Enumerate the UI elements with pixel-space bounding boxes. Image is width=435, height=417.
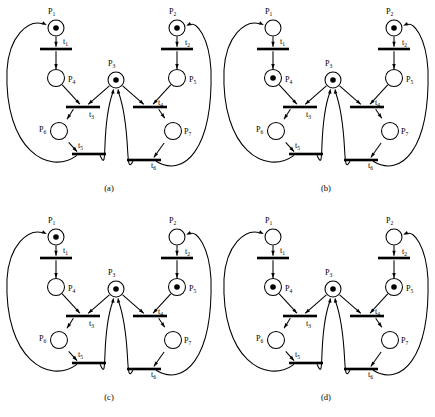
arc-t5-p3 [317, 302, 330, 370]
transition-t3 [66, 106, 100, 109]
transition-t3 [283, 315, 317, 318]
place-label-P1: P1 [48, 216, 56, 226]
arc-arrowhead [271, 251, 274, 256]
arc-arrowhead [67, 114, 71, 119]
arc-t6-p2 [373, 233, 428, 375]
place-label-P2: P2 [386, 7, 394, 17]
transition-label-sub-t5: 5 [80, 145, 83, 151]
place-label-sub-P4: 4 [73, 288, 76, 294]
place-label-sub-P5: 5 [411, 79, 414, 85]
transition-label-sub-t2: 2 [187, 251, 190, 257]
arc-arrowhead [161, 113, 165, 118]
arc-arrowhead [392, 64, 395, 69]
place-label-P6: P6 [256, 334, 264, 344]
arc-arrowhead [186, 22, 191, 26]
transition-label-t1: t1 [280, 37, 285, 47]
transition-label-sub-t3: 3 [91, 114, 94, 120]
arc-layer [224, 21, 428, 166]
place-label-P6: P6 [256, 125, 264, 135]
transition-label-t6: t6 [151, 370, 156, 380]
transition-layer: t1t2t3t4t5t6 [257, 246, 410, 380]
arc-arrowhead [259, 230, 264, 234]
place-label-sub-P1: 1 [270, 11, 273, 17]
place-P6 [268, 123, 285, 140]
place-P5 [386, 70, 403, 87]
transition-t6 [127, 159, 161, 162]
arc-arrowhead [403, 22, 408, 26]
transition-label-sub-t1: 1 [65, 41, 68, 47]
petri-net-diagram-b: t1t2t3t4t5t6P1P2P3P4P5P6P7(b) [217, 0, 435, 208]
transition-label-sub-t5: 5 [80, 354, 83, 360]
place-label-sub-P3: 3 [330, 272, 333, 278]
token-P3 [330, 286, 336, 292]
transition-label-sub-t6: 6 [370, 165, 373, 171]
token-P3 [113, 77, 119, 83]
transition-label-t4: t4 [375, 98, 380, 108]
place-P7 [382, 332, 399, 349]
place-P4 [48, 70, 65, 87]
transition-t1 [257, 48, 289, 51]
arc-t6-p3 [119, 302, 133, 374]
arc-t5-p3 [317, 93, 330, 161]
arc-t6-p3 [119, 93, 133, 165]
transition-label-t3: t3 [306, 319, 311, 329]
place-label-P3: P3 [325, 59, 333, 69]
arc-arrowhead [271, 42, 274, 47]
transition-label-t1: t1 [63, 246, 68, 256]
transition-label-t5: t5 [78, 141, 83, 151]
arc-arrowhead [328, 298, 331, 303]
token-P5 [391, 284, 397, 290]
arc-arrowhead [259, 21, 264, 25]
place-label-sub-P7: 7 [406, 131, 409, 137]
transition-label-t5: t5 [295, 350, 300, 360]
place-P2 [386, 229, 402, 245]
place-layer: P1P2P3P4P5P6P7 [39, 7, 197, 140]
place-label-P1: P1 [265, 7, 273, 17]
arc-arrowhead [186, 231, 191, 235]
token-P3 [113, 286, 119, 292]
panel-caption-a: (a) [104, 183, 114, 193]
place-label-P2: P2 [169, 216, 177, 226]
transition-label-sub-t6: 6 [153, 374, 156, 380]
transition-t5 [72, 153, 106, 156]
arc-t6-p2 [156, 24, 211, 166]
transition-label-t3: t3 [306, 110, 311, 120]
transition-label-t5: t5 [78, 350, 83, 360]
transition-t3 [66, 315, 100, 318]
place-label-P7: P7 [184, 336, 192, 346]
transition-label-sub-t1: 1 [282, 250, 285, 256]
transition-label-sub-t1: 1 [65, 250, 68, 256]
panel-caption-c: (c) [104, 392, 114, 402]
arc-arrowhead [54, 64, 57, 69]
place-label-P4: P4 [285, 75, 293, 85]
arc-arrowhead [392, 273, 395, 278]
arc-arrowhead [175, 273, 178, 278]
transition-label-sub-t3: 3 [308, 323, 311, 329]
place-label-P4: P4 [68, 75, 76, 85]
transition-t5 [289, 362, 323, 365]
token-P4 [270, 284, 276, 290]
token-P2 [174, 25, 180, 31]
arc-arrowhead [284, 114, 288, 119]
arc-arrowhead [67, 323, 71, 328]
arc-t6-p2 [156, 233, 211, 375]
place-label-sub-P4: 4 [290, 288, 293, 294]
transition-label-sub-t2: 2 [404, 42, 407, 48]
place-label-sub-P6: 6 [44, 338, 47, 344]
place-label-P5: P5 [406, 284, 414, 294]
arc-arrowhead [284, 323, 288, 328]
place-label-P2: P2 [386, 216, 394, 226]
place-label-sub-P7: 7 [406, 340, 409, 346]
transition-label-t3: t3 [89, 319, 94, 329]
place-label-P6: P6 [39, 334, 47, 344]
transition-label-sub-t2: 2 [187, 42, 190, 48]
place-label-P5: P5 [189, 284, 197, 294]
token-P4 [270, 75, 276, 81]
transition-layer: t1t2t3t4t5t6 [257, 37, 410, 171]
arc-arrowhead [334, 89, 337, 94]
transition-label-t2: t2 [185, 247, 190, 257]
place-label-sub-P2: 2 [391, 220, 394, 226]
place-label-sub-P7: 7 [189, 131, 192, 137]
place-P7 [165, 123, 182, 140]
transition-layer: t1t2t3t4t5t6 [40, 246, 193, 380]
